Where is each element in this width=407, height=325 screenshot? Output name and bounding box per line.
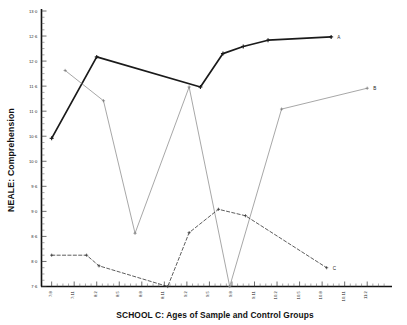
x-tick-label: 8:2 [93, 290, 98, 297]
x-tick-label: 7:11 [70, 290, 75, 299]
y-tick-label: 11·0 [29, 109, 38, 114]
x-tick-label: 8:11 [160, 290, 165, 299]
line-chart: NEALE: Comprehension 13·012·612·011·611·… [0, 0, 407, 325]
y-tick-label: 11·6 [29, 84, 38, 89]
y-tick-label: 9·6 [31, 184, 38, 189]
y-tick-label: 13·0 [29, 9, 38, 14]
y-axis-title: NEALE: Comprehension [6, 108, 16, 212]
x-tick-label: 10:8 [318, 290, 323, 299]
y-tick-label: 8·6 [31, 234, 38, 239]
y-tick-label: 7·6 [31, 284, 38, 289]
x-tick-label: 8:8 [138, 290, 143, 297]
chart-background [0, 0, 407, 325]
y-tick-label: 10·6 [29, 134, 38, 139]
x-tick-label: 7:8 [48, 290, 53, 297]
x-tick-label: 9:11 [251, 290, 256, 299]
x-tick-label: 10:5 [296, 290, 301, 299]
x-tick-label: 9:5 [205, 290, 210, 297]
x-tick-label: 8:5 [115, 290, 120, 297]
y-tick-label: 10·0 [29, 159, 38, 164]
x-tick-label: 9:2 [183, 290, 188, 297]
x-tick-label: 10:11 [341, 290, 346, 301]
series-label-b: B [373, 86, 376, 91]
y-tick-label: 12·6 [29, 34, 38, 39]
x-tick-label: 9:8 [228, 290, 233, 297]
y-tick-label: 9·0 [31, 209, 38, 214]
x-tick-label: 10:2 [273, 290, 278, 299]
x-axis-title: SCHOOL C: Ages of Sample and Control Gro… [116, 310, 314, 320]
x-tick-label: 11:2 [363, 290, 368, 299]
y-tick-label: 8·0 [31, 259, 38, 264]
y-tick-label: 12·0 [29, 59, 38, 64]
chart-container: NEALE: Comprehension 13·012·612·011·611·… [0, 0, 407, 325]
